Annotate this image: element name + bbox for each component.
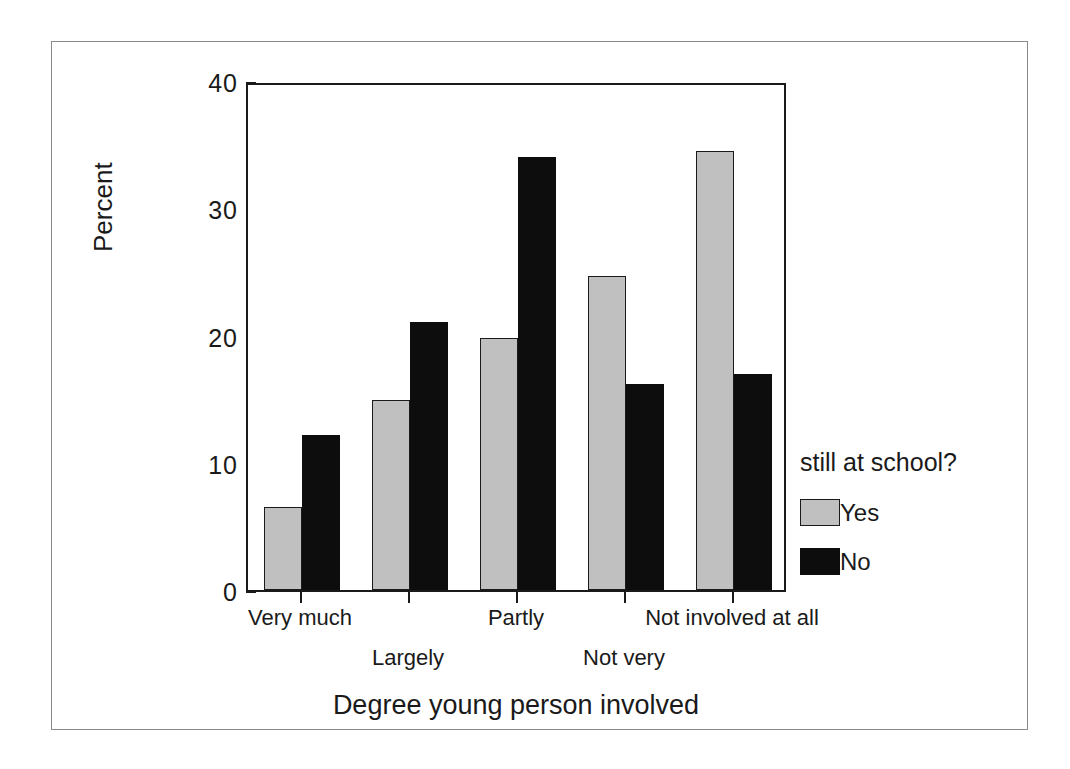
x-axis-title: Degree young person involved (246, 690, 786, 721)
bar-no[interactable] (518, 157, 556, 590)
x-tick-mark (624, 592, 626, 603)
bar-no[interactable] (410, 322, 448, 590)
bar-group (248, 85, 356, 590)
x-tick-mark (732, 592, 734, 603)
y-tick-label: 20 (208, 324, 238, 353)
y-axis: 010203040 (52, 42, 246, 633)
bars-layer (248, 85, 784, 590)
bar-no[interactable] (302, 435, 340, 590)
bar-group (356, 85, 464, 590)
legend-entries: YesNo (800, 499, 1025, 575)
legend-swatch-icon (800, 499, 840, 526)
legend-title: still at school? (800, 448, 1025, 477)
x-tick-mark (300, 592, 302, 603)
figure-border: 010203040 Percent Very muchLargelyPartly… (51, 41, 1028, 730)
bar-yes[interactable] (372, 400, 410, 590)
y-axis-title: Percent (88, 162, 119, 252)
legend-item[interactable]: Yes (800, 499, 1025, 526)
x-tick-mark (516, 592, 518, 603)
bar-no[interactable] (734, 374, 772, 590)
bar-chart: 010203040 Percent Very muchLargelyPartly… (52, 42, 1029, 731)
y-tick-label: 0 (223, 578, 238, 607)
x-tick-label: Largely (372, 645, 444, 671)
legend-item-label: Yes (840, 501, 879, 525)
x-tick-label: Not involved at all (645, 605, 819, 631)
bar-yes[interactable] (696, 151, 734, 590)
y-tick-label: 40 (208, 69, 238, 98)
bar-yes[interactable] (588, 276, 626, 590)
x-tick-mark (408, 592, 410, 603)
legend: still at school? YesNo (800, 448, 1025, 597)
bar-yes[interactable] (480, 338, 518, 590)
x-tick-label: Very much (248, 605, 352, 631)
x-tick-label: Not very (583, 645, 665, 671)
y-tick-label: 30 (208, 196, 238, 225)
bar-yes[interactable] (264, 507, 302, 590)
legend-swatch-icon (800, 548, 840, 575)
bar-no[interactable] (626, 384, 664, 590)
x-tick-label: Partly (488, 605, 544, 631)
bar-group (680, 85, 788, 590)
y-tick-label: 10 (208, 451, 238, 480)
plot-area (246, 83, 786, 592)
legend-item[interactable]: No (800, 548, 1025, 575)
bar-group (464, 85, 572, 590)
legend-item-label: No (840, 550, 871, 574)
bar-group (572, 85, 680, 590)
